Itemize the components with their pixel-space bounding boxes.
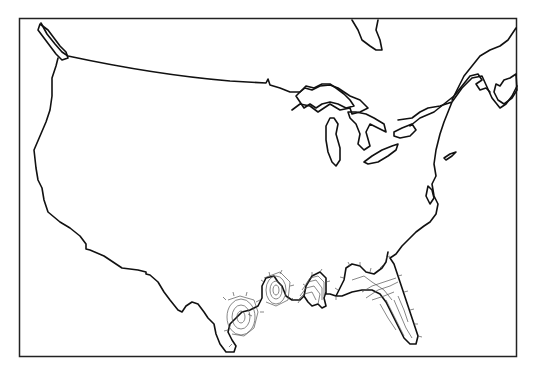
map-figure [0, 0, 535, 369]
lake-michigan [326, 118, 340, 166]
gulf-contours [223, 256, 422, 347]
nova-scotia [494, 74, 517, 104]
st-lawrence-shore [410, 74, 490, 126]
map-frame-border [20, 19, 517, 357]
us-outline [34, 23, 517, 352]
hudson-bay-fragment [352, 20, 382, 50]
lake-huron [348, 112, 386, 150]
lake-ontario [394, 124, 416, 138]
us-outline-map [0, 0, 535, 369]
long-island [444, 152, 456, 160]
